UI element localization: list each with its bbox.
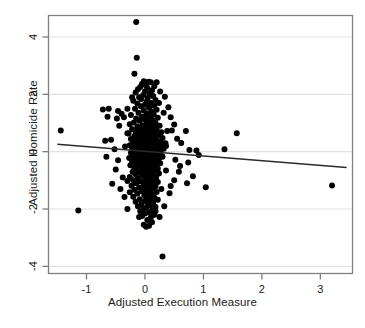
data-point xyxy=(234,130,240,136)
data-point xyxy=(161,110,167,116)
data-point xyxy=(172,157,178,163)
data-point xyxy=(124,130,130,136)
regression-line xyxy=(57,144,346,167)
data-point xyxy=(109,181,115,187)
x-tick-label: 0 xyxy=(142,283,148,295)
data-point xyxy=(155,197,161,203)
data-point xyxy=(136,214,142,220)
data-point xyxy=(116,123,122,129)
data-point xyxy=(122,144,128,150)
data-point xyxy=(133,19,139,25)
data-point xyxy=(135,203,141,209)
data-point xyxy=(155,115,161,121)
data-point xyxy=(190,173,196,179)
data-point xyxy=(160,254,166,260)
data-point xyxy=(329,182,335,188)
data-point xyxy=(119,111,125,117)
data-point xyxy=(177,163,183,169)
data-point xyxy=(134,55,140,61)
data-point xyxy=(128,112,134,118)
data-point xyxy=(105,114,111,120)
data-point xyxy=(162,94,168,100)
x-tick-label: 2 xyxy=(259,283,265,295)
x-tick-label: -1 xyxy=(82,283,92,295)
data-point xyxy=(127,121,133,127)
data-point xyxy=(167,190,173,196)
gridlines xyxy=(50,37,352,266)
x-tick-label: 1 xyxy=(200,283,206,295)
data-point xyxy=(183,128,189,134)
data-point xyxy=(149,219,155,225)
data-point xyxy=(122,194,128,200)
data-point xyxy=(158,186,164,192)
data-point xyxy=(131,71,137,77)
data-point xyxy=(108,137,114,143)
y-axis-title: Adjusted Homicide Rate xyxy=(27,43,39,243)
data-point xyxy=(124,178,130,184)
data-point xyxy=(113,166,119,172)
data-point xyxy=(163,168,169,174)
data-point xyxy=(103,154,109,160)
data-point xyxy=(169,127,175,133)
data-point xyxy=(161,203,167,209)
data-point xyxy=(168,183,174,189)
data-point xyxy=(138,96,144,102)
x-tick-label: 3 xyxy=(317,283,323,295)
data-point xyxy=(171,177,177,183)
data-point xyxy=(186,147,192,153)
y-tick-label: -4 xyxy=(27,258,39,274)
data-point xyxy=(203,184,209,190)
data-point xyxy=(124,106,130,112)
x-axis-title: Adjusted Execution Measure xyxy=(0,296,365,308)
x-axis-ticks xyxy=(87,274,321,280)
data-point xyxy=(165,104,171,110)
data-point xyxy=(100,107,106,113)
plot-canvas xyxy=(0,0,365,328)
data-point xyxy=(184,180,190,186)
data-point xyxy=(117,186,123,192)
data-point xyxy=(114,115,120,121)
data-point xyxy=(157,88,163,94)
scatter-plot-figure: -10123 420-2-4 Adjusted Execution Measur… xyxy=(0,0,365,328)
data-points xyxy=(58,19,335,260)
data-point xyxy=(58,127,64,133)
data-point xyxy=(124,206,130,212)
plot-frame xyxy=(49,16,353,274)
data-point xyxy=(127,189,133,195)
data-point xyxy=(151,83,157,89)
data-point xyxy=(157,214,163,220)
data-point xyxy=(221,146,227,152)
data-point xyxy=(129,94,135,100)
data-point xyxy=(185,160,191,166)
data-point xyxy=(171,121,177,127)
data-point xyxy=(106,106,112,112)
data-point xyxy=(160,154,166,160)
data-point xyxy=(152,208,158,214)
data-point xyxy=(176,169,182,175)
data-point xyxy=(168,114,174,120)
data-point xyxy=(156,100,162,106)
y-axis-ticks xyxy=(43,37,49,266)
data-point xyxy=(178,140,184,146)
data-point xyxy=(102,138,108,144)
data-point xyxy=(115,157,121,163)
data-point xyxy=(75,207,81,213)
data-point xyxy=(163,143,169,149)
